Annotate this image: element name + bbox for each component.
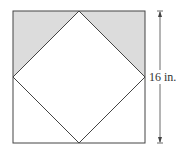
arrow-down-icon xyxy=(158,137,162,143)
arrow-up-icon xyxy=(158,11,162,17)
square-diagram: 16 in. xyxy=(0,0,186,151)
dimension-label: 16 in. xyxy=(149,70,176,84)
